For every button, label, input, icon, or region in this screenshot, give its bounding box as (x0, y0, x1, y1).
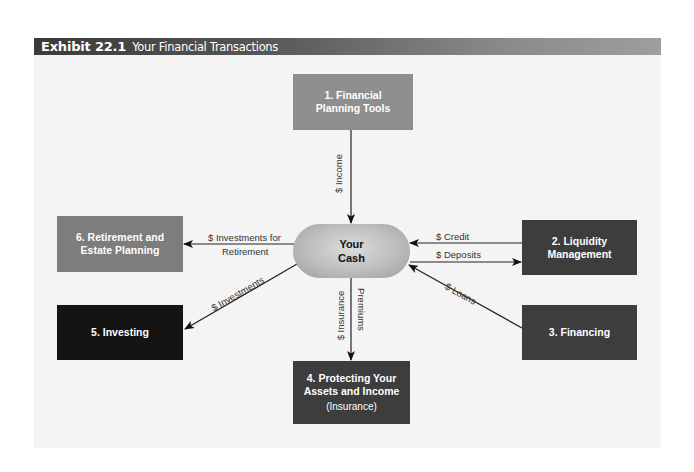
box-2-line2: Management (547, 248, 611, 261)
credit-label: $ Credit (436, 231, 469, 242)
box-liquidity-management: 2. Liquidity Management (522, 220, 637, 275)
box-protecting-assets: 4. Protecting Your Assets and Income (In… (293, 361, 410, 424)
box-5-line1: 5. Investing (91, 326, 149, 339)
box-4-line2: Assets and Income (304, 385, 400, 398)
box-1-line1: 1. Financial (324, 89, 381, 102)
retirement-label-2: Retirement (222, 246, 268, 257)
insurance-label-1: $ Insurance (335, 291, 346, 341)
box-4-line1: 4. Protecting Your (307, 372, 396, 385)
box-financial-planning-tools: 1. Financial Planning Tools (293, 74, 413, 130)
box-6-line1: 6. Retirement and (76, 231, 164, 244)
box-2-line1: 2. Liquidity (552, 235, 607, 248)
insurance-label-2: Premiums (356, 288, 367, 331)
cash-line1: Your (339, 237, 363, 251)
box-investing: 5. Investing (57, 305, 183, 360)
income-label: $ Income (333, 154, 344, 193)
cash-line2: Cash (338, 251, 365, 265)
box-1-line2: Planning Tools (316, 102, 390, 115)
box-4-sub: (Insurance) (326, 400, 377, 413)
box-retirement-estate-planning: 6. Retirement and Estate Planning (57, 216, 183, 272)
box-3-line1: 3. Financing (549, 326, 610, 339)
retirement-label-1: $ Investments for (208, 232, 281, 243)
box-financing: 3. Financing (522, 305, 637, 360)
your-cash-node: Your Cash (293, 224, 410, 278)
deposits-label: $ Deposits (436, 249, 481, 260)
box-6-line2: Estate Planning (81, 244, 160, 257)
